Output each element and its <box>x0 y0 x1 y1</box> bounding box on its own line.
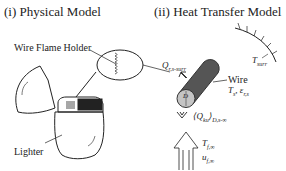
heat-transfer-title: (ii) Heat Transfer Model <box>154 4 281 20</box>
q-ku-label: ⟨Qku⟩D,s-∞ <box>193 111 227 123</box>
wire-label: Wire <box>228 74 248 85</box>
convection-arrow <box>177 112 187 118</box>
flame-holder-label: Wire Flame Holder <box>14 42 91 53</box>
lighter-lid <box>16 66 55 113</box>
physical-model-title: (i) Physical Model <box>4 4 101 20</box>
q-rad-label: Qr,s-surr <box>162 60 186 72</box>
flow-arrow <box>174 132 198 170</box>
u-inf-label: uf,∞ <box>202 152 214 164</box>
lighter-body <box>55 112 104 159</box>
lighter-label: Lighter <box>14 146 43 157</box>
diameter-label: D <box>183 92 188 100</box>
t-surr-label: Tsurr <box>252 55 267 67</box>
magnify-ellipse <box>97 50 143 80</box>
wire-props-label: Ts, εr,s <box>228 85 249 97</box>
t-inf-label: Tf,∞ <box>202 138 214 150</box>
